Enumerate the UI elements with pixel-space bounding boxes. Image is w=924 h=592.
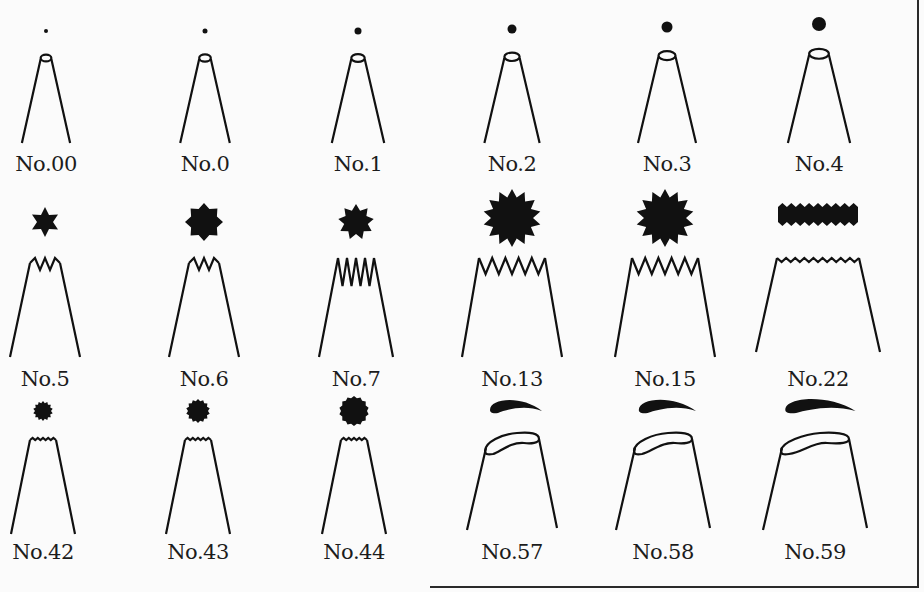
tip-label: No.59 xyxy=(784,540,846,564)
petal-tip-icon xyxy=(0,0,924,592)
